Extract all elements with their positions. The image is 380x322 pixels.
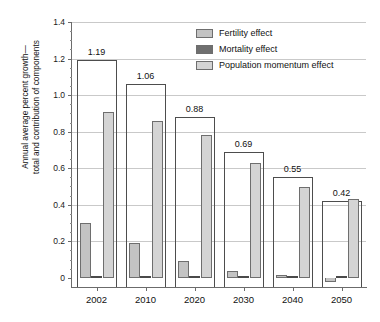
bar-mortality	[336, 276, 347, 278]
y-minor-tick	[70, 177, 73, 178]
y-tick-label: 0	[60, 273, 65, 283]
y-tick-mark	[68, 205, 72, 206]
y-minor-tick	[70, 250, 73, 251]
y-tick-mark	[68, 22, 72, 23]
y-minor-tick	[70, 49, 73, 50]
y-minor-tick	[70, 104, 73, 105]
chart-legend: Fertility effect Mortality effect Popula…	[196, 26, 333, 74]
y-minor-tick	[70, 186, 73, 187]
x-tick-mark	[146, 287, 147, 291]
y-tick-mark	[68, 132, 72, 133]
y-minor-tick	[70, 196, 73, 197]
legend-label-fertility: Fertility effect	[219, 28, 272, 38]
legend-swatch-mortality	[196, 45, 213, 54]
y-minor-tick	[70, 159, 73, 160]
bar-fertility	[325, 278, 336, 282]
legend-item-momentum: Population momentum effect	[196, 58, 333, 72]
bar-momentum	[152, 121, 163, 278]
bar-fertility	[276, 275, 287, 278]
x-tick-mark	[97, 287, 98, 291]
x-axis-line	[71, 287, 367, 288]
y-minor-tick	[70, 123, 73, 124]
y-minor-tick	[70, 86, 73, 87]
bar-momentum	[201, 135, 212, 278]
bar-fertility	[178, 261, 189, 277]
y-tick-mark	[68, 241, 72, 242]
bar-momentum	[103, 112, 114, 278]
y-minor-tick	[70, 68, 73, 69]
legend-item-mortality: Mortality effect	[196, 42, 333, 56]
y-tick-mark	[68, 95, 72, 96]
y-axis-title: Annual average percent growth— total and…	[20, 0, 42, 222]
y-axis-title-line2: total and contribution of components	[31, 0, 42, 222]
y-tick-label: 1.2	[53, 54, 65, 64]
x-tick-label: 2030	[233, 294, 254, 305]
y-tick-mark	[68, 278, 72, 279]
bar-momentum	[299, 187, 310, 278]
y-tick-mark	[68, 59, 72, 60]
x-tick-label: 2010	[135, 294, 156, 305]
total-value-label: 0.55	[284, 164, 302, 174]
legend-label-mortality: Mortality effect	[219, 44, 277, 54]
total-value-label: 0.88	[186, 104, 204, 114]
y-minor-tick	[70, 31, 73, 32]
bar-mortality	[189, 276, 200, 278]
x-tick-mark	[244, 287, 245, 291]
x-tick-label: 2050	[331, 294, 352, 305]
bar-mortality	[91, 276, 102, 278]
x-tick-mark	[342, 287, 343, 291]
legend-swatch-fertility	[196, 29, 213, 38]
bar-fertility	[80, 223, 91, 278]
bar-fertility	[227, 271, 238, 278]
y-axis-line	[71, 22, 72, 287]
bar-momentum	[250, 163, 261, 278]
legend-item-fertility: Fertility effect	[196, 26, 333, 40]
y-minor-tick	[70, 40, 73, 41]
total-value-label: 1.19	[88, 47, 106, 57]
x-tick-label: 2040	[282, 294, 303, 305]
y-minor-tick	[70, 150, 73, 151]
y-minor-tick	[70, 214, 73, 215]
bar-group: 1.19	[77, 22, 117, 287]
y-minor-tick	[70, 223, 73, 224]
legend-swatch-momentum	[196, 61, 213, 70]
bar-mortality	[140, 276, 151, 278]
bar-fertility	[129, 243, 140, 278]
y-tick-label: 1.4	[53, 17, 65, 27]
x-tick-mark	[293, 287, 294, 291]
total-value-label: 0.42	[333, 188, 351, 198]
y-tick-label: 0.8	[53, 127, 65, 137]
y-minor-tick	[70, 77, 73, 78]
x-tick-label: 2002	[86, 294, 107, 305]
total-value-label: 1.06	[137, 71, 155, 81]
y-tick-label: 0.2	[53, 236, 65, 246]
cutoff-title	[40, 0, 300, 3]
y-axis-title-line1: Annual average percent growth—	[20, 0, 31, 222]
y-minor-tick	[70, 232, 73, 233]
y-tick-label: 0.6	[53, 163, 65, 173]
x-tick-label: 2020	[184, 294, 205, 305]
y-minor-tick	[70, 113, 73, 114]
y-minor-tick	[70, 141, 73, 142]
y-minor-tick	[70, 260, 73, 261]
bar-group: 1.06	[126, 22, 166, 287]
chart-figure: Annual average percent growth— total and…	[0, 0, 380, 322]
y-tick-label: 1.0	[53, 90, 65, 100]
y-tick-mark	[68, 168, 72, 169]
bar-mortality	[238, 276, 249, 278]
y-minor-tick	[70, 269, 73, 270]
bar-momentum	[348, 199, 359, 278]
total-value-label: 0.69	[235, 139, 253, 149]
legend-label-momentum: Population momentum effect	[219, 60, 333, 70]
y-tick-label: 0.4	[53, 200, 65, 210]
x-tick-mark	[195, 287, 196, 291]
bar-mortality	[287, 276, 298, 278]
